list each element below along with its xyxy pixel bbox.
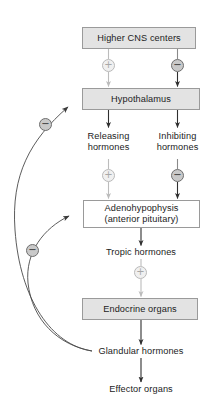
sign-feedback-to-hypothalamus-inhibitory: − xyxy=(39,118,52,131)
sign-cns-to-hypothalamus-stimulatory: + xyxy=(102,59,115,72)
label-tropic-hormones: Tropic hormones xyxy=(86,247,196,258)
node-adenohypophysis-label: Adenohypophysis (anterior pituitary) xyxy=(104,203,178,225)
node-endocrine-organs-label: Endocrine organs xyxy=(103,304,177,315)
sign-inhibiting-to-adenohypophysis-inhibitory: − xyxy=(171,169,184,182)
minus-icon: − xyxy=(173,170,181,180)
node-adenohypophysis[interactable]: Adenohypophysis (anterior pituitary) xyxy=(83,200,200,228)
node-endocrine-organs[interactable]: Endocrine organs xyxy=(82,298,198,320)
minus-icon: − xyxy=(28,245,36,255)
node-hypothalamus-label: Hypothalamus xyxy=(111,94,171,105)
node-higher-cns-centers-label: Higher CNS centers xyxy=(97,33,181,44)
minus-icon: − xyxy=(173,60,181,70)
edge-feedback-glandular-to-adenohypophysis xyxy=(28,216,92,351)
minus-icon: − xyxy=(41,119,49,129)
label-releasing-hormones: Releasing hormones xyxy=(74,131,143,153)
label-effector-organs: Effector organs xyxy=(86,384,196,395)
sign-releasing-to-adenohypophysis-stimulatory: + xyxy=(102,169,115,182)
sign-feedback-to-adenohypophysis-inhibitory: − xyxy=(26,244,39,257)
plus-icon: + xyxy=(136,267,144,277)
label-inhibiting-hormones: Inhibiting hormones xyxy=(143,131,212,153)
node-hypothalamus[interactable]: Hypothalamus xyxy=(82,88,200,110)
sign-cns-to-hypothalamus-inhibitory: − xyxy=(171,59,184,72)
label-glandular-hormones: Glandular hormones xyxy=(80,346,202,357)
plus-icon: + xyxy=(104,170,112,180)
endocrine-control-diagram: Higher CNS centers Hypothalamus Adenohyp… xyxy=(0,0,218,413)
node-higher-cns-centers[interactable]: Higher CNS centers xyxy=(82,27,196,49)
plus-icon: + xyxy=(104,60,112,70)
sign-tropic-to-endocrine-stimulatory: + xyxy=(134,266,147,279)
